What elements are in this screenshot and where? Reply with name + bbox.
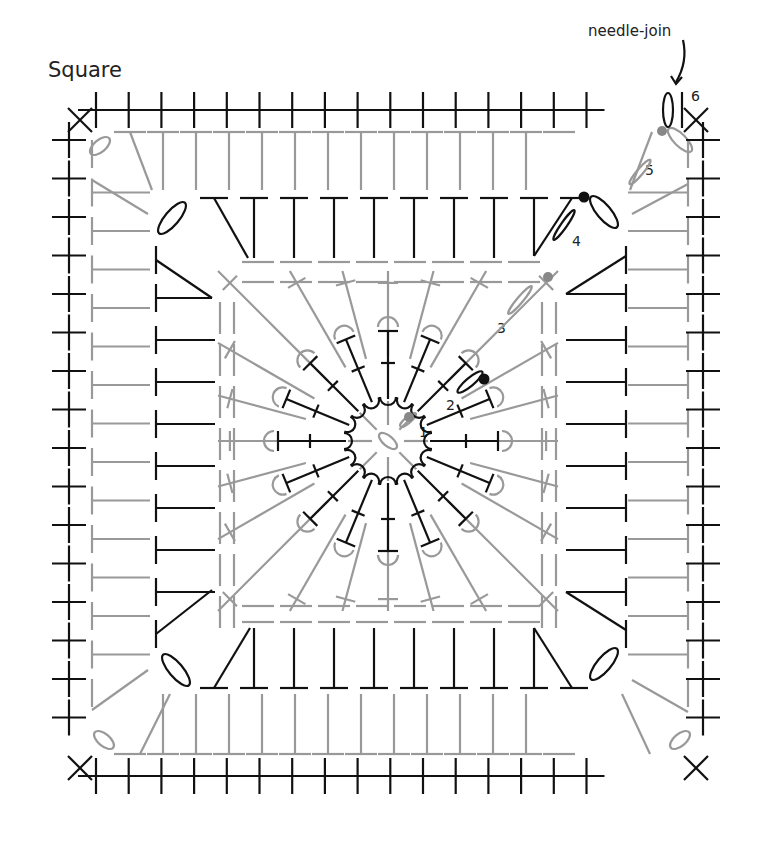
join-dot-round-2 <box>479 374 490 385</box>
join-dot-round-5 <box>657 126 667 136</box>
join-dot-round-3 <box>543 272 553 282</box>
join-dot-round-1 <box>404 412 414 422</box>
crochet-chart <box>0 0 769 848</box>
join-dot-round-4 <box>579 192 590 203</box>
